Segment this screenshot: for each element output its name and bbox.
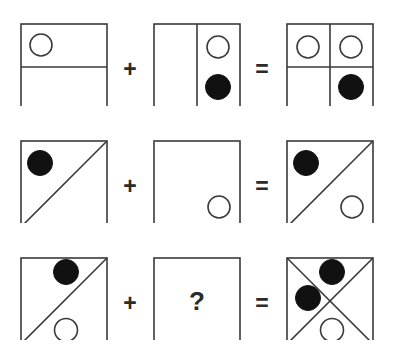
row3-result-square [286,248,376,340]
open-circle [30,34,52,56]
row1-operand-a-square [20,14,110,106]
filled-circle [296,286,321,311]
open-circle [297,36,319,58]
row1-plus-operator: + [120,58,140,81]
filled-circle [294,151,319,176]
row3-operand-a-square [20,248,110,340]
puzzle-row-3: + ? = [0,248,396,355]
row3-plus-operator: + [120,292,140,315]
open-circle [340,36,362,58]
row2-equals-operator: = [252,175,272,198]
row2-operand-b-square [153,131,243,223]
row2-plus-operator: + [120,175,140,198]
row2-operand-a-square [20,131,110,223]
row1-operand-b-square [153,14,243,106]
open-circle [208,196,230,218]
filled-circle [206,75,231,100]
puzzle-row-2: + = [0,131,396,249]
open-circle [55,319,78,341]
row3-equals-operator: = [252,292,272,315]
open-circle [207,36,229,58]
open-circle [321,319,344,341]
puzzle-row-1: + = [0,14,396,132]
row2-result-square [286,131,376,223]
row1-equals-operator: = [252,58,272,81]
question-mark-label: ? [189,286,205,316]
row3-operand-b-square-unknown[interactable]: ? [153,248,243,340]
filled-circle [28,151,53,176]
analogy-puzzle-diagram: + = [0,0,396,355]
row1-result-square [286,14,376,106]
filled-circle [339,75,364,100]
open-circle [341,196,363,218]
filled-circle [320,260,345,285]
filled-circle [54,260,79,285]
